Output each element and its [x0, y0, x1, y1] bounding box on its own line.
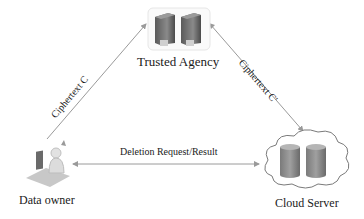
trusted-agency-label: Trusted Agency	[137, 54, 219, 70]
data-owner-icon	[26, 148, 70, 187]
data-owner-label: Data owner	[19, 193, 75, 208]
trusted-agency-icon	[148, 8, 210, 50]
edge-label-deletion-request-result: Deletion Request/Result	[120, 146, 218, 157]
cloud-server-icon	[265, 130, 349, 188]
edge-owner-cloud	[72, 161, 259, 167]
cloud-server-label: Cloud Server	[275, 196, 339, 211]
edge-owner-agency	[47, 24, 146, 146]
